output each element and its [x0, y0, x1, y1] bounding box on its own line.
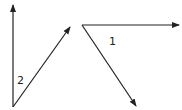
angle-1: 1	[82, 25, 179, 106]
angle-2: 2	[13, 5, 70, 107]
angle-2-label: 2	[17, 74, 24, 87]
angle-diagram: 2 1	[0, 0, 182, 110]
angle-1-label: 1	[109, 35, 116, 48]
ray-2b	[13, 27, 70, 107]
